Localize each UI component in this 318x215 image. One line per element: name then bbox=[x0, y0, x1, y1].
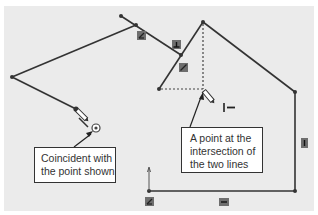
angle-relation-icon[interactable] bbox=[137, 31, 146, 40]
coincident-relation-icon bbox=[92, 124, 100, 132]
sketch-endpoint[interactable] bbox=[201, 20, 205, 24]
callout-leader-right bbox=[190, 97, 201, 127]
left-sketch-points bbox=[10, 14, 183, 79]
sketch-endpoint[interactable] bbox=[157, 87, 161, 91]
sketch-endpoint[interactable] bbox=[10, 75, 14, 79]
callout-text-line: Coincident with bbox=[41, 152, 115, 165]
coincident-cursor bbox=[73, 106, 100, 147]
sketch-endpoint[interactable] bbox=[134, 23, 138, 27]
sketch-line[interactable] bbox=[12, 25, 136, 77]
sketch-line[interactable] bbox=[203, 22, 295, 92]
origin-axis bbox=[148, 167, 151, 191]
sketch-endpoint[interactable] bbox=[293, 189, 297, 193]
left-sketch-lines bbox=[12, 16, 181, 109]
callout-arrowhead-left bbox=[86, 131, 93, 137]
callout-intersection: A point at the intersection of the two l… bbox=[181, 127, 263, 173]
perpendicular-relation-icon[interactable] bbox=[172, 40, 181, 49]
parallel-relation-icon[interactable] bbox=[179, 63, 188, 72]
vertical-relation-icon[interactable] bbox=[301, 138, 308, 148]
horizontal-relation-icon[interactable] bbox=[219, 198, 229, 206]
callout-text-line: the point shown bbox=[41, 165, 115, 178]
intersection-relation-icon bbox=[224, 103, 235, 112]
intersection-cursor bbox=[190, 90, 235, 127]
fixed-relation-icon[interactable] bbox=[145, 197, 154, 206]
sketch-endpoint[interactable] bbox=[119, 14, 123, 18]
sketch-endpoint[interactable] bbox=[293, 90, 297, 94]
pencil-cursor-icon bbox=[202, 90, 216, 105]
callout-text-line: the two lines bbox=[190, 158, 262, 171]
callout-coincident: Coincident with the point shown bbox=[34, 147, 116, 183]
sketch-line[interactable] bbox=[12, 77, 76, 109]
sketch-line[interactable] bbox=[159, 22, 203, 89]
sketch-line[interactable] bbox=[121, 16, 181, 55]
callout-text-line: intersection of bbox=[190, 145, 262, 158]
callout-text-line: A point at the bbox=[190, 132, 262, 145]
